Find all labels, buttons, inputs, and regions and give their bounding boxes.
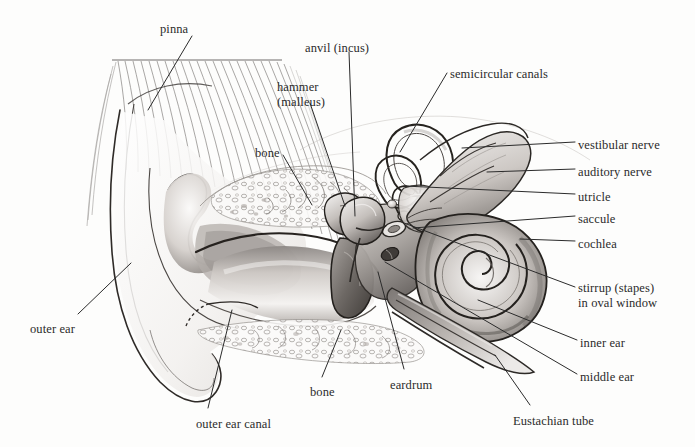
- label-bone-lower: bone: [310, 385, 335, 400]
- label-hammer-malleus: hammer (malleus): [277, 80, 325, 110]
- label-outer-ear-canal: outer ear canal: [196, 417, 271, 432]
- label-eustachian-tube: Eustachian tube: [513, 414, 594, 429]
- label-auditory-nerve: auditory nerve: [578, 165, 652, 180]
- label-stirrup-stapes: stirrup (stapes) in oval window: [578, 281, 657, 311]
- label-eardrum: eardrum: [390, 378, 432, 393]
- label-bone-upper: bone: [255, 146, 280, 161]
- label-outer-ear: outer ear: [30, 322, 75, 337]
- temporal-bone-lower: [198, 319, 424, 363]
- ear-anatomy-figure: pinna anvil (incus) hammer (malleus) sem…: [0, 0, 695, 447]
- label-middle-ear: middle ear: [580, 370, 634, 385]
- label-cochlea: cochlea: [578, 237, 617, 252]
- label-saccule: saccule: [578, 212, 615, 227]
- label-semicircular-canals: semicircular canals: [450, 67, 548, 82]
- label-pinna: pinna: [160, 22, 188, 37]
- label-inner-ear: inner ear: [580, 336, 625, 351]
- label-vestibular-nerve: vestibular nerve: [578, 138, 660, 153]
- label-utricle: utricle: [578, 190, 611, 205]
- label-anvil-incus: anvil (incus): [305, 41, 369, 56]
